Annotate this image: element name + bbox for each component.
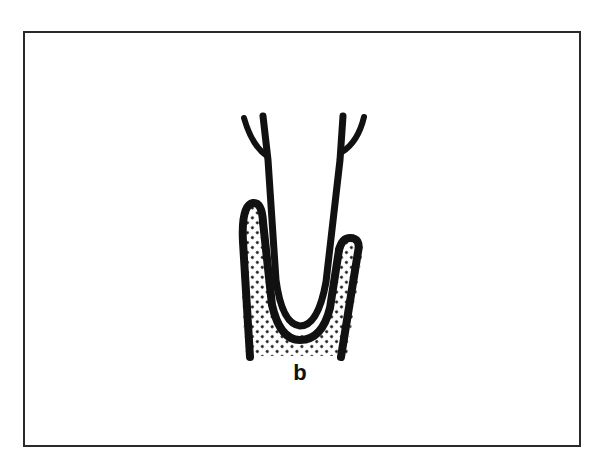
tooth-socket-diagram — [0, 0, 600, 465]
alveolar-bone — [240, 203, 363, 357]
panel-label: b — [290, 360, 310, 386]
